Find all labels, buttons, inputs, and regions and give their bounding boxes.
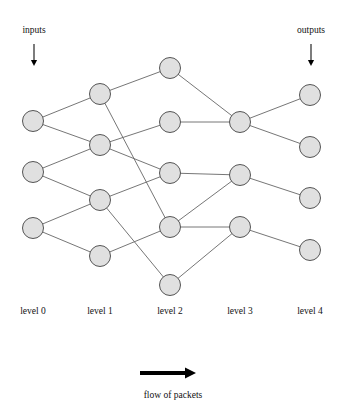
switch-node-n3-0[interactable] xyxy=(230,112,251,133)
switch-node-n0-0[interactable] xyxy=(23,111,44,132)
edge-n2-2-n3-1 xyxy=(180,173,230,174)
edge-n0-1-n1-2 xyxy=(42,176,91,196)
switch-node-n2-1[interactable] xyxy=(160,112,181,133)
switch-node-n2-3[interactable] xyxy=(160,217,181,238)
edge-n1-0-n2-3 xyxy=(105,103,166,218)
switch-node-n4-3[interactable] xyxy=(300,240,321,261)
edge-n0-2-n1-3 xyxy=(42,232,91,252)
switch-node-n1-0[interactable] xyxy=(90,84,111,105)
switch-node-n1-1[interactable] xyxy=(90,135,111,156)
edge-n1-3-n2-3 xyxy=(109,231,161,252)
edge-n3-0-n4-1 xyxy=(249,125,300,143)
switch-node-n2-4[interactable] xyxy=(160,275,181,296)
switch-node-n0-2[interactable] xyxy=(23,218,44,239)
edge-n1-2-n2-4 xyxy=(106,208,163,278)
edge-n3-2-n4-3 xyxy=(250,230,301,247)
switch-node-n0-1[interactable] xyxy=(23,162,44,183)
switch-node-n4-0[interactable] xyxy=(300,85,321,106)
switch-node-n1-3[interactable] xyxy=(90,246,111,267)
level-label-1: level 1 xyxy=(87,306,113,316)
switch-node-n3-1[interactable] xyxy=(230,165,251,186)
level-label-0: level 0 xyxy=(20,306,46,316)
level-label-2: level 2 xyxy=(157,306,183,316)
flow-arrow-icon xyxy=(140,368,196,379)
edge-n2-0-n3-0 xyxy=(178,74,232,116)
edge-n1-1-n2-1 xyxy=(110,125,161,142)
switch-node-n3-2[interactable] xyxy=(230,217,251,238)
switch-node-n4-2[interactable] xyxy=(300,188,321,209)
level-label-4: level 4 xyxy=(297,306,323,316)
switch-node-n2-0[interactable] xyxy=(160,58,181,79)
network-diagram: inputs outputs level 0level 1level 2leve… xyxy=(0,0,346,415)
edge-n1-2-n2-2 xyxy=(109,177,160,197)
edge-n0-1-n1-1 xyxy=(42,149,90,169)
nodes-group xyxy=(23,58,321,296)
flow-of-packets-label: flow of packets xyxy=(144,390,203,400)
switch-node-n1-2[interactable] xyxy=(90,190,111,211)
edge-n0-0-n1-1 xyxy=(42,124,90,141)
edge-n1-0-n2-0 xyxy=(109,71,160,90)
inputs-arrow-icon xyxy=(31,44,37,66)
edge-n2-3-n3-1 xyxy=(178,181,232,221)
edge-n2-4-n3-2 xyxy=(178,233,233,278)
edge-n1-1-n2-2 xyxy=(109,149,160,170)
edge-n3-0-n4-0 xyxy=(249,99,300,119)
switch-node-n2-2[interactable] xyxy=(160,163,181,184)
inputs-label: inputs xyxy=(22,25,46,35)
level-label-3: level 3 xyxy=(227,306,253,316)
outputs-arrow-icon xyxy=(308,44,314,66)
diagram-page: inputs outputs level 0level 1level 2leve… xyxy=(0,0,346,415)
edge-n0-0-n1-0 xyxy=(42,98,90,118)
level-labels-group: level 0level 1level 2level 3level 4 xyxy=(20,306,323,316)
edge-n3-1-n4-2 xyxy=(250,178,301,195)
outputs-label: outputs xyxy=(297,25,325,35)
edge-n0-2-n1-2 xyxy=(42,204,91,224)
switch-node-n4-1[interactable] xyxy=(300,137,321,158)
